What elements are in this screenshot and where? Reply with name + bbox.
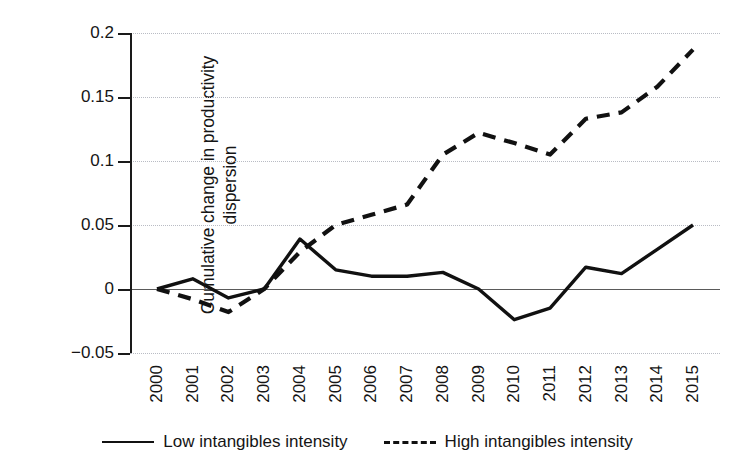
legend-line-solid-icon [102,436,154,448]
legend-item-high-intangibles[interactable]: High intangibles intensity [384,432,633,452]
legend-label-high-intangibles: High intangibles intensity [445,432,633,452]
series-line-low-intangibles [157,225,693,320]
legend-item-low-intangibles[interactable]: Low intangibles intensity [102,432,347,452]
series-layer [0,0,735,472]
chart-figure: Cumulative change in productivity disper… [0,0,735,472]
chart-legend: Low intangibles intensity High intangibl… [0,432,735,452]
legend-label-low-intangibles: Low intangibles intensity [163,432,347,452]
legend-line-dashed-icon [384,436,436,448]
